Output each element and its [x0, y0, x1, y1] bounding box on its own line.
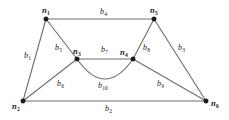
node-n1: [44, 17, 49, 22]
edge-b6: [23, 59, 77, 101]
edge-b1: [23, 19, 46, 101]
node-n3: [75, 57, 80, 62]
edges-layer: [23, 19, 206, 101]
graph-diagram: b1b2b3b4b5b6b7b8b9b10n1n2n3n4n5n6: [0, 0, 229, 120]
edge-b10: [77, 59, 133, 79]
edge-b8: [133, 19, 154, 59]
node-n5: [152, 17, 157, 22]
graph-canvas: [0, 0, 229, 120]
node-n6: [204, 99, 209, 104]
edge-b3: [154, 19, 206, 101]
edge-b5: [46, 19, 77, 59]
edge-b9: [133, 59, 206, 101]
node-n2: [21, 99, 26, 104]
node-n4: [131, 57, 136, 62]
